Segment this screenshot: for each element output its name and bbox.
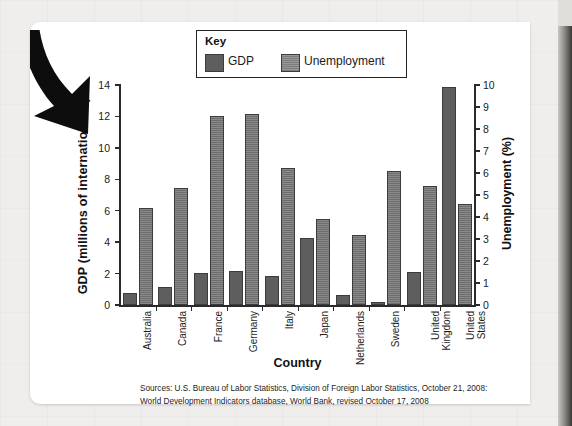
bar-unemployment: [458, 204, 472, 305]
y-axis-right-tick: [475, 304, 480, 305]
bar-unemployment: [387, 171, 401, 305]
bar-gdp: [123, 293, 137, 305]
page-right-edge-top: [558, 0, 572, 26]
bar-gdp: [407, 272, 421, 305]
source-line-2: World Development Indicators database, W…: [140, 395, 530, 408]
x-axis-title: Country: [119, 356, 476, 370]
bar-unemployment: [245, 114, 259, 305]
x-axis-category-label: Japan: [319, 311, 330, 338]
bar-unemployment: [210, 116, 224, 305]
bar-unemployment: [139, 208, 153, 305]
figure-card: Key GDP Unemployment 02468101214 0123456…: [30, 22, 530, 404]
x-axis-category-label: Sweden: [390, 311, 401, 347]
x-axis-category-tick: [262, 306, 263, 311]
source-line-1: Sources: U.S. Bureau of Labor Statistics…: [140, 382, 530, 395]
x-axis-category-label: UnitedStates: [466, 311, 487, 340]
bar-group: [156, 85, 192, 305]
y-axis-right-tick: [475, 238, 480, 239]
bar-gdp: [336, 295, 350, 305]
bar-group: [440, 85, 476, 305]
bar-unemployment: [174, 188, 188, 305]
bar-unemployment: [316, 219, 330, 305]
bar-unemployment: [352, 235, 366, 305]
x-axis-category-label: France: [213, 311, 224, 342]
x-axis-category-label: Canada: [177, 311, 188, 346]
bar-gdp: [265, 276, 279, 305]
y-axis-right-tick: [475, 216, 480, 217]
bar-group: [333, 85, 369, 305]
bar-gdp: [194, 273, 208, 305]
bar-unemployment: [281, 168, 295, 306]
x-axis-category-tick: [333, 306, 334, 311]
x-axis-category-tick: [156, 306, 157, 311]
bar-group: [191, 85, 227, 305]
legend-swatch-gdp-icon: [205, 54, 224, 72]
x-axis-category-tick: [191, 306, 192, 311]
x-axis-category-tick: [369, 306, 370, 311]
x-axis-category-tick: [298, 306, 299, 311]
legend-swatch-unemployment-icon: [281, 54, 300, 72]
bar-group: [298, 85, 334, 305]
y-axis-right-tick: [475, 194, 480, 195]
bar-gdp: [371, 302, 385, 305]
page-right-edge: [558, 0, 572, 426]
bar-gdp: [442, 87, 456, 305]
legend-title: Key: [205, 35, 226, 47]
x-axis-category-label: Australia: [142, 311, 153, 350]
bar-group: [262, 85, 298, 305]
bar-gdp: [300, 238, 314, 305]
y-axis-right-tick: [475, 172, 480, 173]
bar-group: [227, 85, 263, 305]
x-axis-category-tick: [404, 306, 405, 311]
bar-gdp: [158, 287, 172, 305]
legend-label-gdp: GDP: [228, 54, 254, 68]
y-axis-right-tick: [475, 106, 480, 107]
bar-group: [404, 85, 440, 305]
x-axis-category-label: UnitedKingdom: [431, 311, 452, 350]
bar-gdp: [229, 271, 243, 305]
y-axis-right-tick: [475, 150, 480, 151]
x-axis-category-tick: [227, 306, 228, 311]
y-axis-right-tick: [475, 260, 480, 261]
x-axis-category-label: Italy: [284, 311, 295, 329]
y-axis-right-tick: [475, 128, 480, 129]
chart-legend: Key GDP Unemployment: [196, 30, 407, 78]
y-axis-right-title: Unemployment (%): [500, 81, 518, 306]
y-axis-right-tick: [475, 282, 480, 283]
arrow-icon: [30, 30, 150, 150]
source-note: Sources: U.S. Bureau of Labor Statistics…: [140, 382, 530, 408]
bar-unemployment: [423, 186, 437, 305]
legend-label-unemployment: Unemployment: [304, 54, 385, 68]
bar-group: [369, 85, 405, 305]
x-axis-category-label: Germany: [248, 311, 259, 352]
y-axis-right-tick: [475, 84, 480, 85]
plot-area: [120, 85, 475, 305]
